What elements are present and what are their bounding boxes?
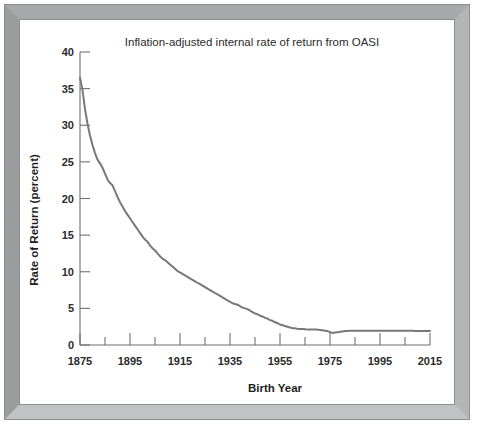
x-tick-label: 1975 — [318, 355, 342, 367]
data-series-line — [80, 78, 430, 333]
x-tick-label: 1995 — [368, 355, 392, 367]
x-tick-label: 2015 — [418, 355, 442, 367]
y-axis-title: Rate of Return (percent) — [28, 154, 40, 286]
chart-title: Inflation-adjusted internal rate of retu… — [125, 36, 379, 48]
y-tick-label: 10 — [62, 266, 74, 278]
y-tick-label: 25 — [62, 156, 74, 168]
x-axis-ticks: 18751895191519351955197519952015 — [68, 333, 442, 367]
y-axis-ticks: 0510152025303540 — [62, 46, 90, 351]
y-tick-label: 20 — [62, 193, 74, 205]
y-tick-label: 30 — [62, 119, 74, 131]
x-tick-label: 1955 — [268, 355, 292, 367]
x-tick-label: 1915 — [168, 355, 192, 367]
y-tick-label: 15 — [62, 229, 74, 241]
y-tick-label: 0 — [68, 339, 74, 351]
x-tick-label: 1875 — [68, 355, 92, 367]
y-tick-label: 5 — [68, 302, 74, 314]
chart-canvas: Inflation-adjusted internal rate of retu… — [20, 20, 454, 404]
y-tick-label: 40 — [62, 46, 74, 58]
figure-root: Inflation-adjusted internal rate of retu… — [0, 0, 478, 430]
x-tick-label: 1935 — [218, 355, 242, 367]
y-tick-label: 35 — [62, 83, 74, 95]
x-axis-title: Birth Year — [248, 382, 303, 394]
x-tick-label: 1895 — [118, 355, 142, 367]
line-chart: Inflation-adjusted internal rate of retu… — [20, 20, 454, 404]
